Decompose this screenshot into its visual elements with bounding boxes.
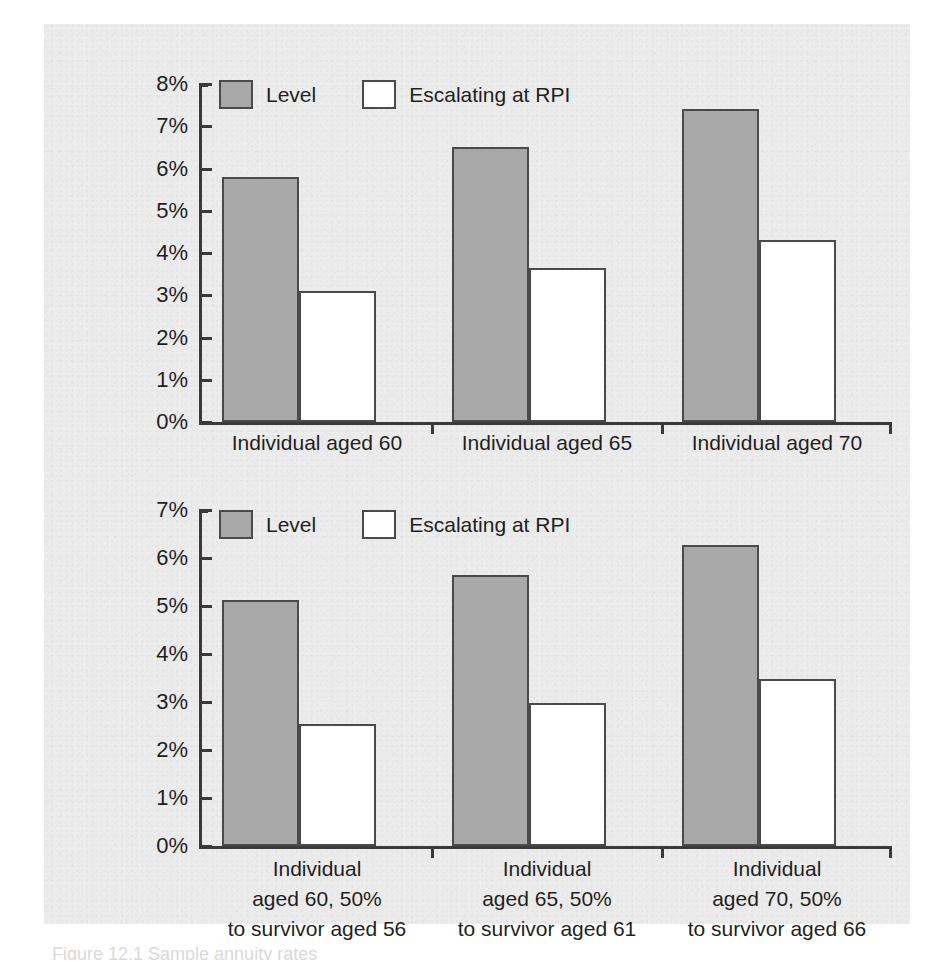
legend-swatch-level-icon	[219, 80, 253, 109]
x-axis-category-label-line: Individual	[432, 854, 662, 884]
figure-caption: Figure 12.1 Sample annuity rates	[52, 944, 912, 960]
bar-escalating	[299, 291, 376, 422]
legend-label-escalating: Escalating at RPI	[409, 83, 570, 107]
legend-swatch-escalating-icon	[362, 80, 396, 109]
bar-escalating	[759, 240, 836, 422]
legend-swatch-escalating-icon	[362, 510, 396, 539]
x-axis-category-label-line: Individual	[662, 854, 892, 884]
bar-level	[452, 575, 529, 846]
bar-escalating	[299, 724, 376, 846]
y-axis-tick-label: 2%	[156, 737, 188, 763]
x-axis-category-label-line: to survivor aged 56	[202, 914, 432, 944]
x-axis-category-label: Individualaged 70, 50%to survivor aged 6…	[662, 854, 892, 944]
y-axis-tick-label: 5%	[156, 198, 188, 224]
y-axis-tick-label: 7%	[156, 497, 188, 523]
x-axis-category-label-line: Individual	[202, 854, 432, 884]
y-axis-tick-label: 4%	[156, 240, 188, 266]
legend-item-level: Level	[219, 80, 316, 109]
y-axis-tick-label: 1%	[156, 367, 188, 393]
legend-label-escalating: Escalating at RPI	[409, 513, 570, 537]
legend-swatch-level-icon	[219, 510, 253, 539]
y-axis-tick-label: 8%	[156, 71, 188, 97]
bar-level	[222, 177, 299, 422]
bar-level	[452, 147, 529, 422]
bar-level	[222, 600, 299, 846]
legend-label-level: Level	[266, 513, 316, 537]
legend-top: Level Escalating at RPI	[219, 80, 570, 109]
legend-label-level: Level	[266, 83, 316, 107]
plot-area-top: 0%1%2%3%4%5%6%7%8%	[199, 84, 892, 422]
y-axis-tick-label: 2%	[156, 325, 188, 351]
x-axis-category-label-line: aged 70, 50%	[662, 884, 892, 914]
legend-item-level: Level	[219, 510, 316, 539]
x-axis-category-label-line: aged 65, 50%	[432, 884, 662, 914]
scanned-figure-plate: Level Escalating at RPI 0%1%2%3%4%5%6%7%…	[44, 24, 910, 924]
x-axis-category-label: Individualaged 65, 50%to survivor aged 6…	[432, 854, 662, 944]
y-axis-tick-label: 4%	[156, 641, 188, 667]
y-axis-tick-label: 5%	[156, 593, 188, 619]
y-axis-tick-label: 0%	[156, 409, 188, 435]
y-axis-tick-label: 3%	[156, 282, 188, 308]
bar-group-container-bottom	[202, 510, 892, 846]
y-axis-tick-label: 6%	[156, 156, 188, 182]
legend-item-escalating: Escalating at RPI	[362, 510, 570, 539]
x-axis-category-label-line: to survivor aged 61	[432, 914, 662, 944]
y-axis-tick-label: 0%	[156, 833, 188, 859]
y-axis-tick-label: 3%	[156, 689, 188, 715]
bar-escalating	[759, 679, 836, 846]
plot-area-bottom: 0%1%2%3%4%5%6%7%	[199, 510, 892, 846]
x-axis-category-label: Individual aged 70	[662, 428, 892, 458]
x-axis-baseline	[199, 846, 892, 849]
chart-single-life: Level Escalating at RPI 0%1%2%3%4%5%6%7%…	[44, 46, 910, 476]
figure-page: Level Escalating at RPI 0%1%2%3%4%5%6%7%…	[0, 0, 946, 962]
bar-group-container-top	[202, 84, 892, 422]
x-axis-category-label-line: aged 60, 50%	[202, 884, 432, 914]
x-axis-category-label: Individual aged 60	[202, 428, 432, 458]
bar-level	[682, 545, 759, 846]
x-axis-category-label: Individual aged 65	[432, 428, 662, 458]
chart-joint-life: Level Escalating at RPI 0%1%2%3%4%5%6%7%…	[44, 476, 910, 924]
y-axis-tick-label: 1%	[156, 785, 188, 811]
x-axis-category-label-line: to survivor aged 66	[662, 914, 892, 944]
x-axis-baseline	[199, 422, 892, 425]
bar-escalating	[529, 268, 606, 422]
bar-escalating	[529, 703, 606, 846]
legend-bottom: Level Escalating at RPI	[219, 510, 570, 539]
y-axis-tick-label: 6%	[156, 545, 188, 571]
legend-item-escalating: Escalating at RPI	[362, 80, 570, 109]
y-axis-tick-label: 7%	[156, 113, 188, 139]
bar-level	[682, 109, 759, 422]
x-axis-category-label: Individualaged 60, 50%to survivor aged 5…	[202, 854, 432, 944]
